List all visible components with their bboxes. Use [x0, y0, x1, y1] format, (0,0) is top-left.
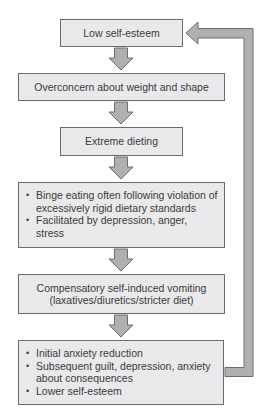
node-low-self-esteem: Low self-esteem	[60, 19, 183, 47]
node-consequences: Initial anxiety reduction Subsequent gui…	[18, 340, 224, 405]
bullet-list: Initial anxiety reduction Subsequent gui…	[19, 347, 217, 397]
down-arrow-icon	[109, 249, 133, 271]
node-text-line: Compensatory self-induced vomiting	[37, 282, 207, 295]
down-arrow-icon	[109, 102, 133, 124]
node-extreme-dieting: Extreme dieting	[60, 127, 183, 156]
node-text: Overconcern about weight and shape	[34, 81, 209, 94]
down-arrow-icon	[109, 157, 133, 179]
bullet-list: Binge eating often following violation o…	[19, 189, 218, 239]
node-text-line: (laxatives/diuretics/stricter diet)	[49, 294, 193, 307]
node-overconcern: Overconcern about weight and shape	[18, 73, 225, 101]
node-binge-eating: Binge eating often following violation o…	[18, 182, 225, 248]
bullet-item: Facilitated by depression, anger, stress	[36, 214, 218, 239]
node-compensatory-vomiting: Compensatory self-induced vomiting (laxa…	[18, 274, 225, 314]
down-arrow-icon	[109, 315, 133, 337]
down-arrow-icon	[109, 48, 133, 70]
bullet-item: Lower self-esteem	[36, 385, 217, 398]
bullet-item: Initial anxiety reduction	[36, 347, 217, 360]
bullet-item: Subsequent guilt, depression, anxiety ab…	[36, 360, 217, 385]
node-text: Low self-esteem	[83, 27, 159, 40]
bullet-item: Binge eating often following violation o…	[36, 189, 218, 214]
node-text: Extreme dieting	[85, 135, 158, 148]
